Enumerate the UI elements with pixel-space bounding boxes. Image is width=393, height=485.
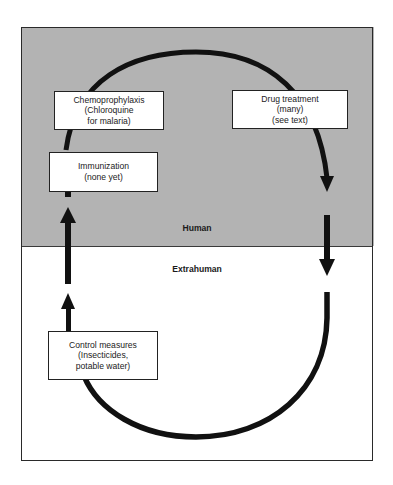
box-line: Drug treatment — [261, 94, 318, 105]
immunization-box: Immunization (none yet) — [49, 152, 158, 192]
left-lower-segment — [66, 306, 71, 332]
box-line: (Insecticides, — [78, 350, 128, 361]
box-line: (many) — [277, 104, 304, 115]
box-line: (none yet) — [84, 172, 123, 183]
drug-treatment-box: Drug treatment (many) (see text) — [232, 90, 348, 129]
box-line: Control measures — [69, 340, 137, 351]
box-line: potable water) — [76, 361, 130, 372]
box-line: for malaria) — [87, 116, 130, 127]
arrowhead-down-icon — [319, 259, 335, 276]
human-zone-label: Human — [182, 223, 211, 233]
cycle-loop — [0, 0, 393, 485]
arrowhead-up-icon — [60, 207, 76, 223]
transmission-cycle-diagram: Chemoprophylaxis (Chloroquine for malari… — [0, 0, 393, 485]
arrowhead-up-icon — [61, 293, 75, 309]
box-line: Chemoprophylaxis — [73, 95, 144, 106]
arrowhead-down-icon — [320, 176, 334, 192]
box-line: (see text) — [272, 115, 308, 126]
box-line: Immunization — [78, 161, 129, 172]
right-mid-segment — [324, 215, 330, 261]
chemoprophylaxis-box: Chemoprophylaxis (Chloroquine for malari… — [54, 91, 164, 130]
box-line: (Chloroquine — [84, 105, 133, 116]
left-mid-segment — [65, 220, 71, 284]
control-measures-box: Control measures (Insecticides, potable … — [48, 331, 158, 380]
extrahuman-zone-label: Extrahuman — [172, 264, 222, 274]
